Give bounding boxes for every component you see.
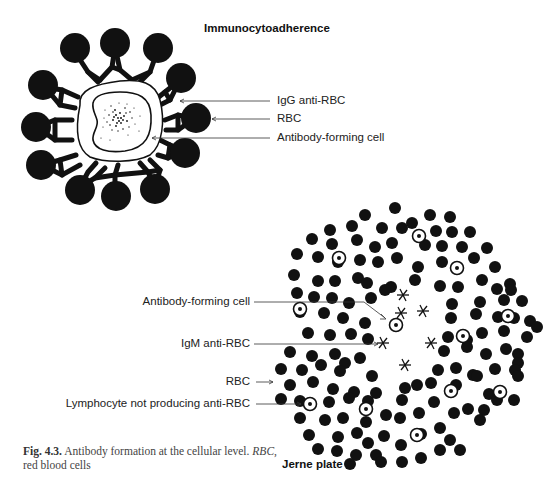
rbc-cell <box>181 103 211 133</box>
rbc-cell <box>143 33 173 63</box>
antibody-forming-cell-plaque <box>390 319 403 332</box>
lymphocyte-cell <box>413 230 426 243</box>
rbc-cell <box>60 33 90 63</box>
label-igg-anti-rbc: IgG anti-RBC <box>277 95 345 107</box>
caption-abbr: RBC <box>252 445 274 457</box>
igm-antibody-icon <box>417 305 429 317</box>
igm-antibodies <box>377 289 437 371</box>
rbc-cell <box>140 174 170 204</box>
label-rbc-jerne: RBC <box>226 376 250 388</box>
label-antibody-forming-cell-jerne: Antibody-forming cell <box>143 296 250 308</box>
rbc-cell <box>166 63 196 93</box>
label-lymphocyte: Lymphocyte not producing anti-RBC <box>66 398 250 410</box>
lymphocyte-cell <box>502 310 515 323</box>
rbc-cell <box>26 150 56 180</box>
label-rbc-rosette: RBC <box>277 113 301 125</box>
igm-antibody-icon <box>425 337 437 349</box>
rbc-cell <box>28 70 58 100</box>
rbc-cell <box>65 175 95 205</box>
igm-antibody-icon <box>395 307 407 319</box>
jerne-plate-diagram <box>254 202 543 470</box>
rbc-field <box>275 202 543 470</box>
jerne-plate-title: Jerne plate <box>282 459 343 471</box>
rbc-cell <box>170 138 200 168</box>
lymphocyte-cell <box>304 398 317 411</box>
lymphocyte-cell <box>294 303 307 316</box>
label-igm-anti-rbc: IgM anti-RBC <box>181 338 250 350</box>
lymphocyte-cell <box>451 262 464 275</box>
caption-label: Fig. 4.3. <box>23 445 62 457</box>
igm-antibody-icon <box>397 289 409 301</box>
lymphocyte-cell <box>445 385 458 398</box>
rosette-diagram <box>21 28 270 211</box>
rbc-cell <box>100 28 130 58</box>
lymphocyte-cell <box>411 429 424 442</box>
rbc-cell <box>101 181 131 211</box>
figure-caption: Fig. 4.3. Antibody formation at the cell… <box>23 445 283 473</box>
igm-antibody-icon <box>399 359 411 371</box>
lymphocyte-cell <box>494 386 507 399</box>
immunocytoadherence-title: Immunocytoadherence <box>204 23 330 35</box>
lymphocyte-cell <box>333 252 346 265</box>
igm-antibody-icon <box>377 337 389 349</box>
label-antibody-forming-cell-rosette: Antibody-forming cell <box>277 132 384 144</box>
rbc-cell <box>21 112 51 142</box>
lymphocyte-cell <box>360 403 373 416</box>
caption-text: Antibody formation at the cellular level… <box>62 445 252 457</box>
figure-canvas <box>0 0 550 487</box>
lymphocyte-cell <box>457 330 470 343</box>
antibody-forming-cell-center <box>77 80 162 161</box>
